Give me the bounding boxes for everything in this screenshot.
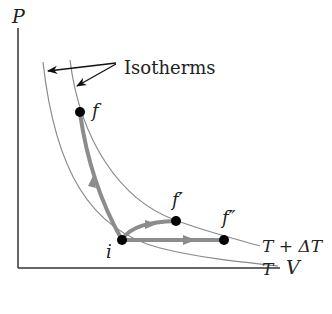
label-i: i [106,241,112,262]
arrow-i-to-f-double-prime [183,235,196,245]
point-f [75,107,85,117]
label-isotherm-t-plus-dt: T + ΔT [262,236,324,256]
point-f-prime [171,216,181,226]
isotherms-callout-label: Isotherms [124,57,216,78]
label-f-double-prime: f″ [220,207,236,228]
pv-diagram: P V Isotherms f i f′ f″ T + ΔT T [0,0,332,314]
point-f-double-prime [219,235,229,245]
isotherm-t [43,62,278,266]
label-f-prime: f′ [170,189,183,210]
label-isotherm-t: T [262,259,275,279]
p-axis-label: P [11,5,26,27]
point-i [117,235,127,245]
v-axis-label: V [286,256,302,278]
label-f: f [90,100,102,121]
